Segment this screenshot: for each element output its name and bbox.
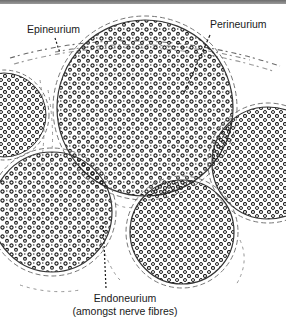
perineurium-label: Perineurium — [210, 19, 267, 30]
fascicle-left-top — [0, 70, 49, 160]
epineurium-leader-line — [55, 38, 60, 53]
nerve-cross-section-diagram — [0, 0, 286, 328]
endoneurium-label: Endoneurium — [94, 293, 156, 304]
epineurium-label: Epineurium — [27, 24, 80, 35]
endoneurium-sublabel: (amongst nerve fibres) — [72, 306, 177, 317]
